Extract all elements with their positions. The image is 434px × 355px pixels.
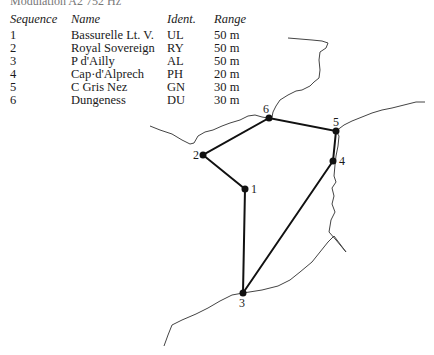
beacon-point-1 <box>242 186 249 193</box>
beacon-route-line <box>203 118 336 293</box>
point-label-3: 3 <box>239 296 245 310</box>
point-label-2: 2 <box>193 148 199 162</box>
point-label-1: 1 <box>251 182 257 196</box>
point-label-4: 4 <box>339 154 345 168</box>
coastline-england-north <box>272 38 328 117</box>
coastline-france-north <box>336 102 425 131</box>
coastline-france-west <box>164 131 346 346</box>
beacon-point-4 <box>330 158 337 165</box>
point-label-5: 5 <box>333 115 339 129</box>
point-label-6: 6 <box>263 102 269 116</box>
beacon-map: 1 2 3 4 5 6 <box>0 0 434 355</box>
beacon-point-2 <box>200 152 207 159</box>
